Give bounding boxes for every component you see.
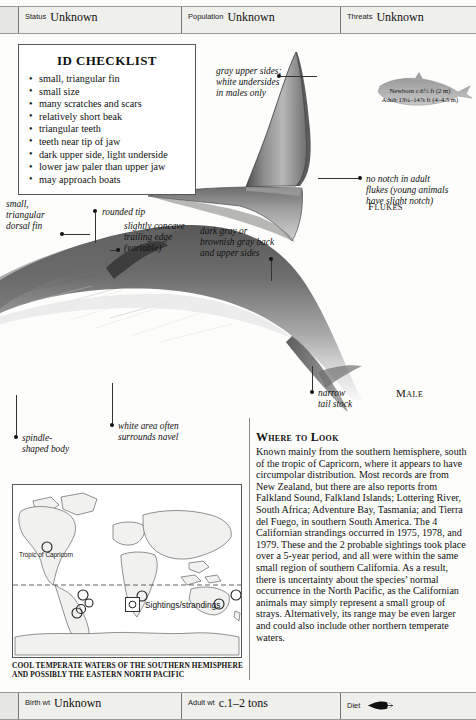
status-field: Status Unknown — [19, 7, 182, 33]
threats-label: Threats — [347, 12, 372, 21]
checklist-item: triangular teeth — [27, 123, 187, 136]
checklist-item: dark upper side, light underside — [27, 149, 187, 162]
map-caption: COOL TEMPERATE WATERS OF THE SOUTHERN HE… — [12, 661, 258, 680]
map-legend: Sightings/strandings — [125, 597, 220, 612]
callout-dark-gray-back: dark gray or brownish gray back and uppe… — [200, 226, 296, 260]
checklist-item: teeth near tip of jaw — [27, 136, 187, 149]
leader-rounded-tip — [95, 213, 96, 243]
checklist-item: small size — [27, 86, 187, 99]
bar-left-spacer — [0, 7, 19, 33]
birth-weight-value: Unknown — [54, 696, 101, 711]
callout-white-area-navel: white area often surrounds navel — [118, 421, 218, 443]
callout-dot-narrow-tail — [310, 390, 314, 394]
population-field: Population Unknown — [182, 7, 341, 33]
checklist-item: lower jaw paler than upper jaw — [27, 161, 187, 174]
bar-left-spacer-bottom — [0, 693, 19, 719]
top-status-bar: Status Unknown Population Unknown Threat… — [0, 6, 476, 34]
where-to-look-heading: Where to Look — [256, 430, 470, 445]
id-checklist-items: small, triangular fin small size many sc… — [27, 73, 187, 186]
leader-narrow-tail — [312, 366, 313, 390]
adult-weight-value: c.1–2 tons — [219, 696, 268, 711]
size-note: Newborn c.6½ ft (2 m) Adult 13¼–14⅞ ft (… — [368, 86, 472, 104]
birth-weight-label: Birth wt — [25, 698, 50, 707]
tropic-of-capricorn-label: Tropic of Capricorn — [19, 551, 73, 558]
leader-gray-upper — [281, 76, 317, 77]
where-to-look-body: Known mainly from the southern hemispher… — [256, 446, 470, 643]
flukes-label: Flukes — [368, 200, 403, 212]
fish-icon — [368, 697, 394, 715]
bottom-stats-bar: Birth wt Unknown Adult wt c.1–2 tons Die… — [0, 692, 476, 720]
leader-spindle — [16, 395, 17, 435]
male-label: Male — [396, 387, 423, 399]
checklist-item: many scratches and scars — [27, 98, 187, 111]
threats-field: Threats Unknown — [341, 7, 476, 33]
size-adult: Adult 13¼–14⅞ ft (4–4.5 m) — [368, 95, 472, 104]
leader-trailing-edge — [110, 250, 118, 251]
where-to-look-section: Where to Look Known mainly from the sout… — [256, 430, 470, 643]
callout-rounded-tip: rounded tip — [102, 207, 145, 218]
callout-dot-no-notch — [358, 176, 362, 180]
callout-dot-spindle — [14, 435, 18, 439]
column-divider — [249, 418, 250, 680]
id-checklist-box: ID CHECKLIST small, triangular fin small… — [18, 44, 196, 195]
callout-small-triangular-fin: small, triangular dorsal fin — [6, 199, 80, 233]
checklist-item: may approach boats — [27, 174, 187, 187]
population-value: Unknown — [227, 10, 274, 25]
leader-no-notch — [318, 178, 358, 179]
checklist-item: small, triangular fin — [27, 73, 187, 86]
status-value: Unknown — [50, 10, 97, 25]
checklist-item: relatively short beak — [27, 111, 187, 124]
callout-spindle-shaped-body: spindle- shaped body — [22, 433, 84, 455]
diet-field: Diet — [341, 693, 476, 719]
threats-value: Unknown — [376, 10, 423, 25]
birth-weight-field: Birth wt Unknown — [19, 693, 182, 719]
distribution-map: Tropic of Capricorn Sightings/strandings — [12, 484, 242, 658]
callout-gray-upper-sides: gray upper sides; white undersides in ma… — [216, 66, 304, 100]
world-map-svg — [13, 485, 241, 657]
adult-weight-field: Adult wt c.1–2 tons — [182, 693, 341, 719]
adult-weight-label: Adult wt — [188, 698, 215, 707]
leader-small-fin — [64, 234, 90, 235]
size-newborn: Newborn c.6½ ft (2 m) — [368, 86, 472, 95]
id-checklist-title: ID CHECKLIST — [27, 53, 187, 69]
callout-dot-white-area — [110, 423, 114, 427]
diet-label: Diet — [347, 701, 360, 710]
sighting-circle-icon — [125, 597, 140, 612]
leader-dark-gray — [271, 261, 272, 281]
callout-trailing-edge: slightly concave trailing edge (variable… — [124, 221, 206, 255]
callout-narrow-tail-stock: narrow tail stock — [318, 388, 388, 410]
map-legend-label: Sightings/strandings — [145, 600, 220, 610]
leader-white-area — [112, 383, 113, 423]
population-label: Population — [188, 12, 223, 21]
status-label: Status — [25, 12, 46, 21]
